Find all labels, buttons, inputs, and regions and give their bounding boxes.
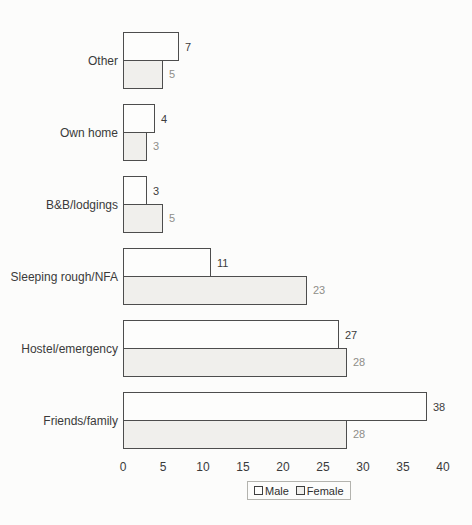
x-tick-label: 30 xyxy=(356,460,369,474)
x-tick-label: 10 xyxy=(196,460,209,474)
x-tick-label: 15 xyxy=(236,460,249,474)
value-label-female: 28 xyxy=(353,356,365,368)
value-label-female: 23 xyxy=(313,284,325,296)
bar-male xyxy=(123,248,211,277)
value-label-male: 4 xyxy=(161,113,167,125)
bar-female xyxy=(123,348,347,377)
x-tick-label: 0 xyxy=(120,460,127,474)
value-label-female: 28 xyxy=(353,428,365,440)
category-label: B&B/lodgings xyxy=(0,198,118,212)
bar-female xyxy=(123,276,307,305)
x-tick-label: 40 xyxy=(436,460,449,474)
value-label-female: 3 xyxy=(153,140,159,152)
legend-swatch-icon xyxy=(254,486,263,495)
bar-male xyxy=(123,320,339,349)
value-label-male: 27 xyxy=(345,329,357,341)
value-label-male: 38 xyxy=(433,401,445,413)
x-tick-label: 5 xyxy=(160,460,167,474)
legend-swatch-icon xyxy=(296,486,305,495)
legend-item-female: Female xyxy=(296,485,344,497)
bar-female xyxy=(123,420,347,449)
value-label-female: 5 xyxy=(169,68,175,80)
value-label-female: 5 xyxy=(169,212,175,224)
bar-female xyxy=(123,60,163,89)
bar-male xyxy=(123,32,179,61)
bar-female xyxy=(123,204,163,233)
value-label-male: 3 xyxy=(153,185,159,197)
legend-item-male: Male xyxy=(254,485,289,497)
bar-male xyxy=(123,176,147,205)
x-tick-label: 35 xyxy=(396,460,409,474)
category-label: Friends/family xyxy=(0,414,118,428)
category-label: Sleeping rough/NFA xyxy=(0,270,118,284)
legend-label: Female xyxy=(307,485,344,497)
category-label: Own home xyxy=(0,126,118,140)
value-label-male: 7 xyxy=(185,41,191,53)
value-label-male: 11 xyxy=(217,257,228,269)
category-label: Other xyxy=(0,54,118,68)
x-tick-label: 25 xyxy=(316,460,329,474)
bar-male xyxy=(123,104,155,133)
bar-male xyxy=(123,392,427,421)
grouped-bar-chart: Other75Own home43B&B/lodgings35Sleeping … xyxy=(0,0,472,525)
bar-female xyxy=(123,132,147,161)
category-label: Hostel/emergency xyxy=(0,342,118,356)
x-tick-label: 20 xyxy=(276,460,289,474)
legend-label: Male xyxy=(265,485,289,497)
legend: MaleFemale xyxy=(247,481,351,500)
